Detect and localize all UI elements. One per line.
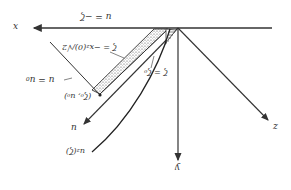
label-zeta-eq: ζ = −x₂(0)/√2 bbox=[62, 43, 117, 51]
label-zeta-eq-zeta0: ζ = ζ₀ bbox=[144, 68, 168, 76]
z-axis bbox=[178, 28, 268, 120]
label-x-axis: x bbox=[13, 22, 18, 31]
label-u-axis: u bbox=[71, 123, 77, 132]
dotted-region bbox=[92, 29, 168, 94]
label-curve-u2: u₂(ζ) bbox=[66, 147, 85, 155]
label-y-axis: y bbox=[175, 163, 180, 172]
label-u-eq-neg-zeta: u = −ζ bbox=[80, 12, 111, 21]
hatched-region bbox=[165, 29, 176, 44]
point-zeta0-u0 bbox=[98, 93, 101, 96]
label-z-axis: z bbox=[273, 122, 278, 131]
diagram-canvas bbox=[0, 0, 291, 190]
label-u-eq-u0: u = u₀ bbox=[26, 75, 54, 84]
label-point: (ζ₀, u₀) bbox=[64, 92, 91, 100]
